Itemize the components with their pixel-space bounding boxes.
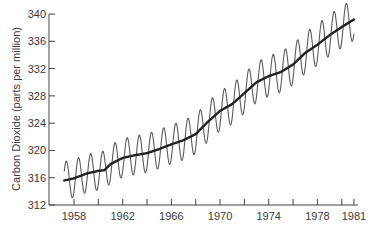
y-tick-label: 312: [28, 199, 46, 211]
y-axis-ticks: 312316320324328332336340: [28, 8, 55, 211]
x-tick-label: 1981: [342, 210, 366, 222]
y-axis: 312316320324328332336340 Carbon Dioxide …: [10, 8, 55, 211]
trend-series-line: [64, 20, 354, 181]
plot-area: [64, 3, 354, 197]
x-tick-label: 1962: [110, 210, 134, 222]
x-tick-label: 1958: [62, 210, 86, 222]
co2-chart: 312316320324328332336340 Carbon Dioxide …: [0, 0, 385, 227]
x-axis: 1958196219661970197419781981: [49, 199, 366, 222]
y-tick-label: 316: [28, 172, 46, 184]
y-tick-label: 324: [28, 117, 46, 129]
y-tick-label: 340: [28, 8, 46, 20]
x-axis-ticks: 1958196219661970197419781981: [62, 199, 366, 222]
x-tick-label: 1974: [256, 210, 280, 222]
y-tick-label: 328: [28, 90, 46, 102]
x-tick-label: 1978: [305, 210, 329, 222]
y-tick-label: 332: [28, 63, 46, 75]
y-tick-label: 320: [28, 144, 46, 156]
x-tick-label: 1970: [208, 210, 232, 222]
x-tick-label: 1966: [159, 210, 183, 222]
y-tick-label: 336: [28, 35, 46, 47]
y-axis-title: Carbon Dioxide (parts per million): [10, 27, 22, 191]
